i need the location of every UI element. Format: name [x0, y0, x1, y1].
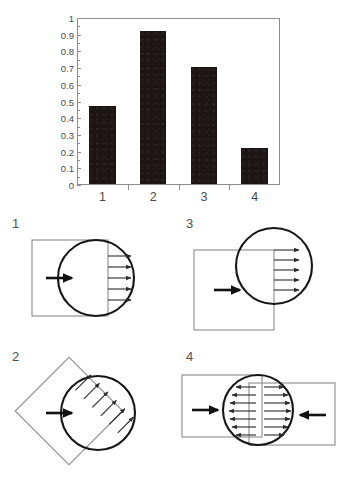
- x-tick-label: 4: [235, 190, 275, 204]
- y-tick-mark: [77, 185, 81, 186]
- y-tick-mark-minor: [77, 43, 80, 44]
- x-tick-mark: [229, 185, 230, 190]
- circle-outline: [61, 376, 135, 450]
- y-tick-mark-minor: [77, 177, 80, 178]
- bar-3: [191, 67, 217, 184]
- diagram-panel-4: 4: [174, 345, 347, 483]
- y-tick-label: 0.4: [50, 113, 74, 124]
- bar-2: [140, 31, 166, 184]
- y-tick-mark-minor: [77, 93, 80, 94]
- response-arrows: [108, 256, 131, 300]
- y-tick-label: 1: [50, 13, 74, 24]
- x-tick-label: 2: [133, 190, 173, 204]
- y-tick-mark-minor: [77, 160, 80, 161]
- diagram-panel-1: 1: [0, 212, 173, 350]
- y-tick-mark: [77, 18, 81, 19]
- response-arrows: [75, 375, 133, 433]
- y-tick-label: 0.5: [50, 96, 74, 107]
- x-tick-label: 3: [184, 190, 224, 204]
- response-arrows-left: [229, 387, 256, 435]
- diagram-panel-2: 2: [0, 345, 173, 483]
- diagram-panel-3: 3: [174, 212, 347, 350]
- response-arrows: [274, 250, 299, 290]
- y-tick-label: 0: [50, 180, 74, 191]
- x-tick-mark: [179, 185, 180, 190]
- y-tick-mark: [77, 85, 81, 86]
- y-tick-mark: [77, 35, 81, 36]
- y-tick-mark-minor: [77, 127, 80, 128]
- bar-4: [241, 148, 267, 184]
- y-tick-label: 0.6: [50, 79, 74, 90]
- y-tick-label: 0.8: [50, 46, 74, 57]
- y-tick-mark: [77, 135, 81, 136]
- y-tick-mark: [77, 118, 81, 119]
- plot-area: [77, 18, 280, 185]
- y-tick-mark: [77, 152, 81, 153]
- y-tick-label: 0.7: [50, 63, 74, 74]
- y-tick-label: 0.9: [50, 29, 74, 40]
- y-tick-mark: [77, 168, 81, 169]
- y-tick-mark-minor: [77, 143, 80, 144]
- bar-chart: Selection unit response 00.10.20.30.40.5…: [0, 0, 347, 212]
- y-tick-label: 0.2: [50, 146, 74, 157]
- x-tick-mark: [128, 185, 129, 190]
- diagram-panels: 1: [0, 212, 347, 488]
- y-tick-mark-minor: [77, 110, 80, 111]
- bar-1: [89, 106, 115, 184]
- y-tick-mark: [77, 68, 81, 69]
- y-tick-mark: [77, 51, 81, 52]
- x-tick-label: 1: [82, 190, 122, 204]
- y-tick-mark-minor: [77, 76, 80, 77]
- y-tick-label: 0.3: [50, 129, 74, 140]
- y-tick-mark-minor: [77, 26, 80, 27]
- rectangle-left: [182, 375, 262, 437]
- y-tick-label: 0.1: [50, 163, 74, 174]
- y-tick-mark-minor: [77, 60, 80, 61]
- y-tick-mark: [77, 102, 81, 103]
